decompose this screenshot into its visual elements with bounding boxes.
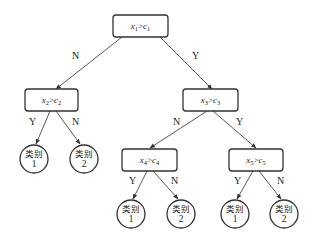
edge-n3-n5 xyxy=(213,111,256,148)
edge-label-n2-right: N xyxy=(72,116,79,127)
node-x5: x5>c5 xyxy=(229,149,283,171)
decision-tree-diagram: N Y Y N N Y Y N Y N x1>c1 x2>c2 x3>c3 x4… xyxy=(0,0,325,250)
leaf-number: 1 xyxy=(233,214,238,224)
edge-label-n4-right: N xyxy=(171,175,178,186)
leaf-label: 类别 xyxy=(122,204,140,214)
leaf-class-2a: 类别 2 xyxy=(70,145,98,173)
edge-label-n5-left: Y xyxy=(234,175,241,186)
edge-label-n3-left: N xyxy=(173,116,180,127)
leaf-class-1c: 类别 1 xyxy=(221,200,249,228)
edge-label-root-right: Y xyxy=(192,50,199,61)
leaf-label: 类别 xyxy=(25,149,43,159)
edge-label-n4-left: Y xyxy=(129,175,136,186)
edge-root-n3 xyxy=(160,37,212,89)
edge-label-root-left: N xyxy=(72,50,79,61)
leaf-number: 2 xyxy=(282,214,287,224)
edge-label-n2-left: Y xyxy=(29,116,36,127)
node-x2: x2>c2 xyxy=(25,89,78,111)
edge-n2-leaf1 xyxy=(36,111,50,144)
leaf-class-1b: 类别 1 xyxy=(117,200,145,228)
leaf-number: 2 xyxy=(82,159,87,169)
leaf-label: 类别 xyxy=(172,204,190,214)
edge-label-n5-right: N xyxy=(277,175,284,186)
leaf-class-2b: 类别 2 xyxy=(167,200,195,228)
leaf-label: 类别 xyxy=(226,204,244,214)
edge-label-n3-right: Y xyxy=(236,116,243,127)
node-x4: x4>c4 xyxy=(122,149,177,171)
leaf-number: 1 xyxy=(129,214,134,224)
node-x3: x3>c3 xyxy=(183,89,238,111)
leaf-number: 1 xyxy=(32,159,37,169)
edge-root-n2 xyxy=(56,37,122,89)
leaf-number: 2 xyxy=(179,214,184,224)
leaf-label: 类别 xyxy=(275,204,293,214)
leaf-label: 类别 xyxy=(75,149,93,159)
leaf-class-2c: 类别 2 xyxy=(270,200,298,228)
leaf-class-1a: 类别 1 xyxy=(20,145,48,173)
node-root: x1>c1 xyxy=(113,15,168,37)
